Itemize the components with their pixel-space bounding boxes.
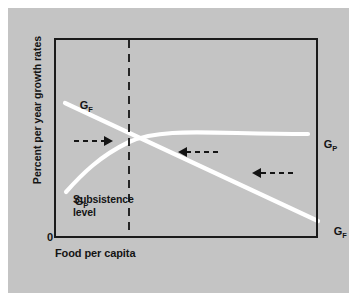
origin-label: 0 — [47, 232, 53, 244]
label-food-growth-top-left: GF — [68, 88, 93, 126]
figure-panel: Percent per year growth rates 0 Food per… — [8, 8, 349, 293]
x-axis-label: Food per capita — [55, 248, 135, 260]
y-axis-label: Percent per year growth rates — [31, 25, 43, 195]
label-food-growth-bottom-right: GF — [322, 214, 347, 252]
subsistence-line1: Subsistence — [73, 194, 193, 205]
subsistence-line2: level — [73, 207, 193, 218]
label-population-growth-bottom-left: GP — [63, 184, 88, 222]
label-population-growth-right: GP — [312, 127, 337, 165]
subsistence-annotation: Subsistence level — [73, 194, 193, 217]
